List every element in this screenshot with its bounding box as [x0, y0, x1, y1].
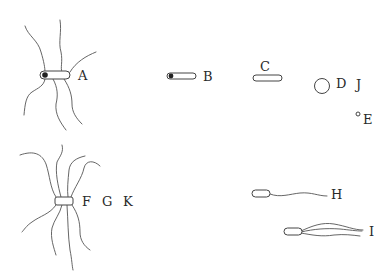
cell-d: D J: [315, 76, 362, 94]
label-e: E: [363, 112, 373, 127]
rod-cell: [253, 75, 282, 81]
flagellum: [24, 79, 45, 115]
label-h: H: [331, 187, 342, 202]
cell-b: B: [167, 69, 213, 84]
label-i: I: [369, 224, 374, 239]
rod-cell: [55, 197, 73, 205]
flagellum: [301, 229, 362, 232]
flagellum: [68, 156, 85, 197]
cell-i: I: [284, 223, 374, 239]
flagellum: [60, 20, 62, 72]
cell-e: E: [356, 112, 373, 127]
cell-a: A: [24, 20, 96, 130]
flagellum: [64, 79, 82, 124]
cell-h: H: [252, 187, 342, 202]
polar-granule: [169, 74, 174, 79]
rod-cell: [252, 190, 270, 197]
flagellum: [25, 26, 45, 72]
rod-cell: [284, 228, 302, 235]
label-g: G: [102, 194, 112, 209]
flagellum: [56, 145, 62, 197]
cell-f: F G K: [20, 145, 133, 270]
label-a: A: [77, 68, 88, 83]
coccus-cell: [356, 112, 360, 116]
flagellum: [270, 193, 327, 196]
bacteria-diagram: A B C D J E F G K H: [0, 0, 392, 280]
flagellum: [301, 233, 360, 236]
flagellum: [51, 205, 62, 255]
flagellum: [53, 79, 66, 130]
flagellum: [67, 205, 73, 270]
flagellum: [22, 205, 56, 232]
label-j: J: [354, 77, 361, 92]
label-f: F: [82, 194, 91, 209]
label-k: K: [123, 194, 133, 209]
flagellum: [71, 162, 100, 197]
flagellum: [72, 205, 90, 250]
label-d: D: [336, 76, 346, 91]
label-c: C: [260, 59, 270, 74]
flagellum: [20, 153, 56, 197]
label-b: B: [203, 69, 213, 84]
cell-c: C: [253, 59, 282, 81]
polar-granule: [42, 72, 48, 78]
coccus-cell: [315, 79, 330, 94]
